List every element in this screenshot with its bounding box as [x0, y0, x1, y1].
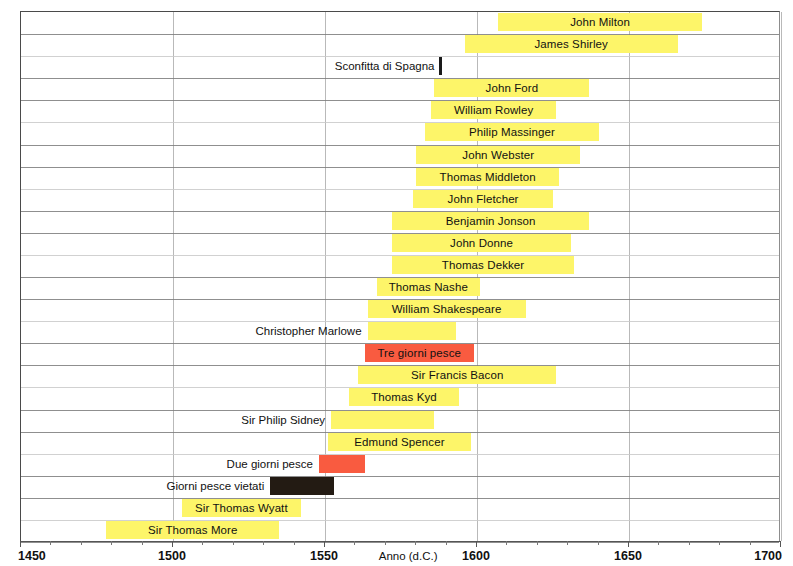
x-axis-title: Anno (d.C.): [379, 550, 438, 562]
axis-tick-label: 1650: [614, 549, 642, 563]
axis-tick-label: 1450: [18, 549, 46, 563]
axis-tick-label: 1500: [158, 549, 186, 563]
axis-tick-label: 1700: [754, 549, 782, 563]
axis-tick-label: 1600: [462, 549, 490, 563]
axis-tick-label: 1550: [310, 549, 338, 563]
timeline-chart: John MiltonJames ShirleySconfitta di Spa…: [0, 0, 793, 566]
x-axis-tick-labels: 145015001550160016501700: [0, 0, 793, 566]
